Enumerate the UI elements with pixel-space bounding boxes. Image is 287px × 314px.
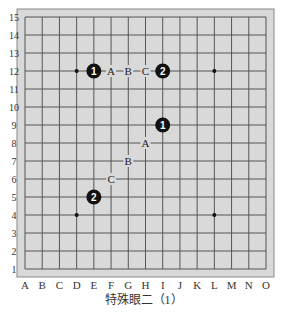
column-label: B <box>39 279 46 290</box>
row-label: 6 <box>12 174 17 185</box>
star-point <box>212 69 216 73</box>
go-board: ABCDEFGHIJKLMNO123456789101112131415ABCA… <box>0 0 287 290</box>
star-point <box>212 213 216 217</box>
row-label: 1 <box>12 264 17 275</box>
column-label: I <box>161 279 165 290</box>
column-label: N <box>245 279 253 290</box>
row-label: 15 <box>9 12 19 23</box>
row-label: 8 <box>12 138 17 149</box>
row-label: 4 <box>12 210 17 221</box>
column-label: L <box>211 279 218 290</box>
column-label: M <box>227 279 237 290</box>
stone-number: 1 <box>160 120 166 131</box>
star-point <box>75 213 79 217</box>
column-label: G <box>124 279 132 290</box>
row-label: 11 <box>9 84 19 95</box>
mark-label: A <box>107 65 115 77</box>
column-label: H <box>142 279 150 290</box>
row-label: 12 <box>9 66 19 77</box>
row-label: 3 <box>12 228 17 239</box>
mark-label: B <box>125 65 132 77</box>
row-label: 2 <box>12 246 17 257</box>
column-label: C <box>56 279 63 290</box>
column-label: F <box>108 279 114 290</box>
row-label: 13 <box>9 48 19 59</box>
column-label: J <box>178 279 183 290</box>
column-label: K <box>193 279 201 290</box>
column-label: D <box>73 279 81 290</box>
mark-label: A <box>142 137 150 149</box>
mark-label: C <box>107 173 114 185</box>
column-label: O <box>262 279 270 290</box>
stone-number: 2 <box>91 192 97 203</box>
row-label: 10 <box>9 102 19 113</box>
column-label: E <box>90 279 97 290</box>
diagram-caption: 特殊眼二（1） <box>0 290 287 308</box>
star-point <box>75 69 79 73</box>
row-label: 9 <box>12 120 17 131</box>
row-label: 14 <box>9 30 19 41</box>
mark-label: B <box>125 155 132 167</box>
row-label: 7 <box>12 156 17 167</box>
row-label: 5 <box>12 192 17 203</box>
stone-number: 2 <box>160 66 166 77</box>
mark-label: C <box>142 65 149 77</box>
stone-number: 1 <box>91 66 97 77</box>
column-label: A <box>21 279 29 290</box>
